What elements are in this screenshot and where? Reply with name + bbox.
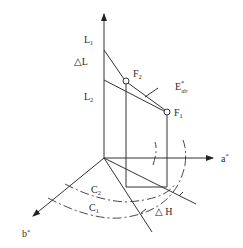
label-b-axis: b*	[22, 228, 30, 239]
label-e-ab: E*ab	[175, 79, 188, 94]
label-a-axis: a*	[221, 152, 229, 164]
label-c2: C2	[91, 184, 101, 196]
l2-to-f1-line	[104, 80, 164, 111]
delta-h-tick-1	[141, 209, 146, 213]
l1-to-f2-line	[104, 50, 124, 79]
radial-f2	[104, 158, 152, 232]
eab-leader	[145, 88, 158, 97]
point-f1	[164, 109, 170, 115]
diagram-canvas: L1 △L L2 F2 F1 E*ab a* b* C2 C1 △ H	[0, 0, 243, 248]
label-l1: L1	[84, 34, 93, 46]
color-space-diagram: L1 △L L2 F2 F1 E*ab a* b* C2 C1 △ H	[0, 0, 243, 248]
arc-c2-upper	[153, 142, 156, 165]
label-delta-l: △L	[74, 56, 88, 67]
arc-c1-upper	[183, 140, 186, 165]
delta-h-tick-2	[179, 192, 183, 196]
label-f1: F1	[174, 107, 183, 119]
label-f2: F2	[133, 68, 142, 80]
label-delta-h: △ H	[155, 206, 172, 217]
radial-f1	[104, 158, 196, 204]
point-f2	[123, 78, 129, 84]
label-l2: L2	[84, 91, 93, 103]
label-c1: C1	[89, 202, 99, 214]
